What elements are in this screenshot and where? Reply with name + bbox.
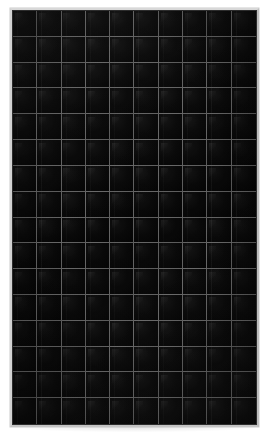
solar-cell xyxy=(232,37,256,63)
solar-cell xyxy=(183,218,207,244)
solar-cell xyxy=(134,192,158,218)
solar-cell xyxy=(232,347,256,373)
solar-cell xyxy=(207,372,231,398)
solar-cell xyxy=(86,372,110,398)
solar-cell xyxy=(110,321,134,347)
solar-cell xyxy=(207,37,231,63)
solar-cell xyxy=(134,243,158,269)
solar-cell xyxy=(183,295,207,321)
solar-cell xyxy=(62,321,86,347)
solar-cell xyxy=(183,269,207,295)
solar-cell xyxy=(159,218,183,244)
solar-cell xyxy=(37,88,61,114)
solar-cell xyxy=(13,218,37,244)
solar-cell xyxy=(37,192,61,218)
solar-cell xyxy=(13,269,37,295)
solar-cell xyxy=(110,88,134,114)
solar-cell xyxy=(37,63,61,89)
solar-cell xyxy=(37,295,61,321)
solar-cell xyxy=(207,114,231,140)
solar-cell xyxy=(207,243,231,269)
solar-cell xyxy=(62,63,86,89)
solar-cell xyxy=(134,269,158,295)
solar-cell xyxy=(86,166,110,192)
solar-cell xyxy=(110,218,134,244)
solar-cell xyxy=(13,398,37,424)
solar-cell xyxy=(110,372,134,398)
solar-cell xyxy=(159,243,183,269)
solar-cell xyxy=(62,140,86,166)
solar-cell xyxy=(86,269,110,295)
solar-cell xyxy=(86,347,110,373)
solar-cell xyxy=(86,192,110,218)
solar-cell xyxy=(13,372,37,398)
solar-cell xyxy=(134,166,158,192)
solar-cell xyxy=(183,63,207,89)
solar-cell xyxy=(13,243,37,269)
solar-cell xyxy=(207,11,231,37)
solar-cell xyxy=(134,63,158,89)
solar-cell xyxy=(110,243,134,269)
solar-cell xyxy=(159,347,183,373)
solar-cell xyxy=(183,114,207,140)
solar-cell xyxy=(134,218,158,244)
solar-cell xyxy=(207,63,231,89)
solar-cell xyxy=(86,63,110,89)
solar-cell xyxy=(232,321,256,347)
solar-cell xyxy=(13,321,37,347)
solar-cell xyxy=(110,63,134,89)
solar-cell xyxy=(134,372,158,398)
solar-cell xyxy=(110,114,134,140)
solar-cell xyxy=(110,269,134,295)
solar-cell xyxy=(207,398,231,424)
solar-cell xyxy=(134,347,158,373)
solar-cell xyxy=(183,372,207,398)
solar-cell xyxy=(183,88,207,114)
solar-cell xyxy=(183,321,207,347)
solar-cell xyxy=(232,166,256,192)
solar-cell xyxy=(62,166,86,192)
solar-cell xyxy=(207,166,231,192)
solar-panel-module xyxy=(10,8,259,427)
solar-cell xyxy=(183,140,207,166)
solar-cell xyxy=(86,114,110,140)
solar-cell xyxy=(37,269,61,295)
solar-cell xyxy=(159,88,183,114)
solar-cell xyxy=(13,37,37,63)
solar-cell-grid xyxy=(13,11,256,424)
solar-cell xyxy=(37,37,61,63)
solar-cell xyxy=(62,398,86,424)
solar-cell xyxy=(207,218,231,244)
solar-cell xyxy=(62,269,86,295)
solar-cell xyxy=(183,347,207,373)
solar-cell xyxy=(37,347,61,373)
solar-cell xyxy=(207,140,231,166)
solar-cell xyxy=(110,37,134,63)
solar-cell xyxy=(86,11,110,37)
solar-cell xyxy=(134,295,158,321)
solar-cell xyxy=(159,166,183,192)
solar-cell xyxy=(13,192,37,218)
solar-cell xyxy=(159,114,183,140)
solar-cell xyxy=(13,166,37,192)
solar-cell xyxy=(62,243,86,269)
solar-cell xyxy=(62,192,86,218)
solar-cell xyxy=(110,192,134,218)
solar-cell xyxy=(86,37,110,63)
solar-cell xyxy=(62,218,86,244)
solar-cell xyxy=(183,192,207,218)
solar-cell xyxy=(86,243,110,269)
solar-cell xyxy=(134,140,158,166)
solar-cell xyxy=(232,295,256,321)
solar-cell xyxy=(183,37,207,63)
solar-cell xyxy=(207,321,231,347)
solar-cell xyxy=(232,398,256,424)
solar-cell xyxy=(37,114,61,140)
solar-cell xyxy=(13,140,37,166)
solar-cell xyxy=(159,321,183,347)
solar-cell xyxy=(159,295,183,321)
product-image-canvas xyxy=(0,0,271,442)
solar-cell xyxy=(232,11,256,37)
solar-cell xyxy=(37,372,61,398)
solar-cell xyxy=(232,218,256,244)
